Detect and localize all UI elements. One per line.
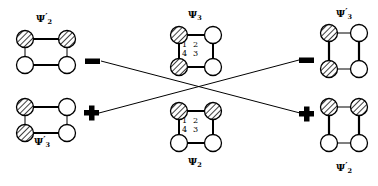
site-top-right-hatched	[205, 103, 222, 120]
molecule-bottom-right	[318, 96, 370, 154]
label-psi: Ψ	[36, 13, 45, 24]
molecule-top-right	[318, 22, 370, 80]
site-bottom-right-open	[351, 135, 368, 152]
label-psi: Ψ	[188, 9, 197, 20]
site-number-2: 2	[190, 116, 201, 125]
site-number-1: 1	[179, 116, 190, 125]
orbital-interaction-diagram: Ψ′2 Ψ′3	[0, 0, 378, 186]
site-top-right-open	[59, 99, 76, 116]
label-subscript: 2	[48, 18, 53, 26]
site-bottom-left-hatched	[17, 125, 34, 142]
molecule-label-bottom-left: Ψ′3	[34, 136, 50, 149]
site-numbers-top-row: 12	[179, 40, 201, 49]
plus-icon	[299, 107, 314, 122]
minus-sign-left	[85, 56, 101, 66]
site-bottom-left-open	[321, 135, 338, 152]
molecule-top-left	[14, 28, 78, 76]
site-top-left-hatched	[17, 31, 34, 48]
site-bottom-left-open	[17, 57, 34, 74]
plus-sign-left	[84, 105, 100, 121]
site-bottom-left-hatched	[321, 61, 338, 78]
molecule-label-center-bottom: Ψ2	[188, 157, 202, 169]
minus-icon	[85, 59, 100, 65]
site-bottom-right-open	[59, 125, 76, 142]
site-top-left-hatched	[321, 99, 338, 116]
minus-icon	[299, 58, 314, 64]
molecule-label-center-top: Ψ3	[188, 10, 202, 22]
site-number-4: 4	[179, 125, 190, 134]
site-top-left-hatched	[321, 25, 338, 42]
plus-sign-right	[299, 106, 315, 122]
site-numbers-bottom-row: 43	[179, 49, 201, 58]
site-number-2: 2	[190, 40, 201, 49]
label-psi: Ψ	[336, 162, 345, 173]
site-numbers-center-top: 12 43	[179, 40, 201, 58]
label-subscript: 2	[197, 161, 202, 169]
site-numbers-top-row: 12	[179, 116, 201, 125]
label-subscript: 3	[348, 13, 353, 21]
site-numbers-center-bottom: 12 43	[179, 116, 201, 134]
site-bottom-left-hatched	[171, 59, 188, 76]
plus-icon	[84, 106, 99, 121]
minus-sign-right	[299, 55, 315, 65]
label-subscript: 3	[197, 14, 202, 22]
site-bottom-right-open	[205, 59, 222, 76]
site-bottom-right-open	[59, 57, 76, 74]
site-top-right-open	[351, 25, 368, 42]
site-bottom-left-open	[171, 135, 188, 152]
site-number-4: 4	[179, 49, 190, 58]
site-bottom-right-open	[205, 135, 222, 152]
site-top-right-open	[205, 27, 222, 44]
site-top-left-hatched	[17, 99, 34, 116]
label-subscript: 3	[46, 141, 51, 149]
molecule-label-bottom-right: Ψ′2	[336, 162, 352, 175]
label-psi: Ψ	[34, 136, 43, 147]
molecule-label-top-left: Ψ′2	[36, 13, 52, 26]
label-subscript: 2	[348, 167, 353, 175]
molecule-label-top-right: Ψ′3	[336, 8, 352, 21]
label-psi: Ψ	[188, 156, 197, 167]
site-bottom-right-open	[351, 61, 368, 78]
site-number-3: 3	[190, 125, 201, 134]
site-numbers-bottom-row: 43	[179, 125, 201, 134]
site-number-3: 3	[190, 49, 201, 58]
site-top-right-hatched	[59, 31, 76, 48]
label-psi: Ψ	[336, 8, 345, 19]
site-top-right-hatched	[351, 99, 368, 116]
site-number-1: 1	[179, 40, 190, 49]
